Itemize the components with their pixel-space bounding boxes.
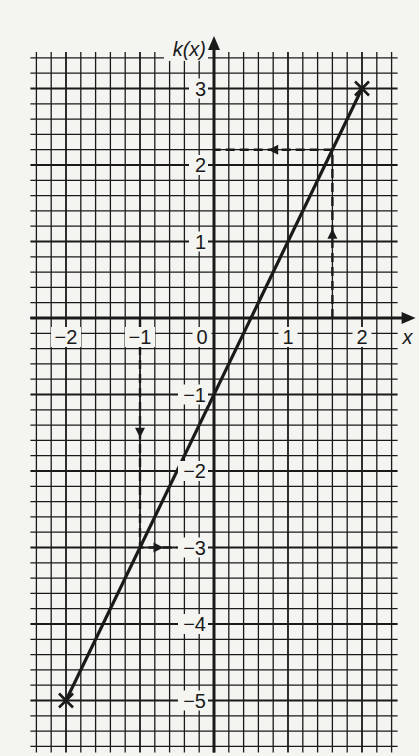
annotation-lookup-x-neg1	[140, 318, 177, 548]
annotation-arrowhead-icon	[135, 428, 145, 438]
labels: −2−1012x321−1−2−3−4−5k(x)	[51, 38, 416, 712]
x-axis-arrow-icon	[402, 312, 416, 324]
annotation-arrowhead-icon	[327, 229, 337, 239]
y-tick-label: −2	[183, 460, 206, 482]
y-tick-label: 3	[195, 78, 206, 100]
x-tick-label: −2	[55, 326, 78, 348]
y-tick-label: 2	[195, 154, 206, 176]
x-tick-label: 0	[196, 326, 207, 348]
x-tick-label: 2	[356, 326, 367, 348]
y-tick-label: −3	[183, 537, 206, 559]
y-axis-title: k(x)	[173, 38, 206, 60]
y-tick-label: 1	[195, 231, 206, 253]
y-axis-arrow-icon	[208, 36, 220, 50]
x-tick-label: 1	[282, 326, 293, 348]
y-tick-label: −5	[183, 690, 206, 712]
chart: −2−1012x321−1−2−3−4−5k(x)	[0, 0, 419, 756]
x-axis-title: x	[402, 326, 414, 348]
y-tick-label: −4	[183, 613, 206, 635]
x-tick-label: −1	[129, 326, 152, 348]
y-tick-label: −1	[183, 384, 206, 406]
annotation-arrowhead-icon	[154, 543, 164, 553]
